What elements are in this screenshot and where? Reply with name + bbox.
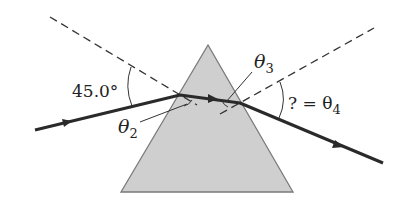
label-theta4: ? = θ4 [288,93,341,117]
prism-diagram: 45.0° θ2 θ3 ? = θ4 [0,0,402,203]
label-incident-angle: 45.0° [72,81,118,101]
arc-incident [128,67,132,106]
label-theta3: θ3 [254,50,274,76]
arc-theta4 [279,82,283,118]
label-theta2: θ2 [118,115,138,141]
